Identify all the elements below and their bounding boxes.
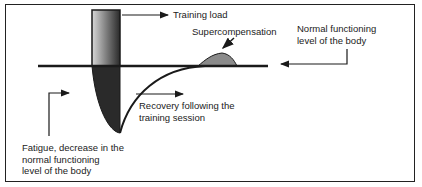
supercompensation-arrow — [223, 38, 234, 48]
normal-level-arrow — [281, 49, 347, 64]
fatigue-arrow — [49, 93, 69, 136]
supercompensation-label: Supercompensation — [192, 26, 277, 38]
normal-level-label: Normal functioning level of the body — [297, 23, 376, 46]
recovery-label: Recovery following the training session — [139, 100, 235, 123]
supercompensation-hump — [198, 53, 237, 66]
fatigue-label: Fatigue, decrease in the normal function… — [22, 142, 124, 177]
fatigue-dip — [92, 66, 120, 133]
training-load-label: Training load — [173, 9, 228, 21]
training-load-bar — [92, 10, 120, 66]
